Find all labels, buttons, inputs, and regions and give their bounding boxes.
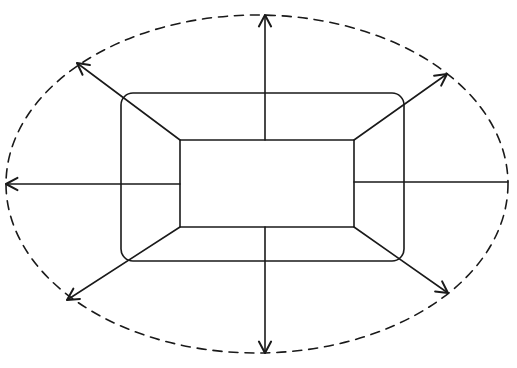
inner-rectangle [180,140,354,227]
arrow-shaft [77,63,180,140]
arrow-shaft [67,227,180,300]
arrow-shaft [354,227,448,293]
arrow-bottom-left [67,227,180,300]
arrow-top-left [77,63,180,140]
arrowhead-icon [434,74,447,86]
arrow-top-right [354,74,447,140]
arrowhead-icon [67,289,80,300]
arrow-bottom-right [354,227,448,293]
outer-rounded-rectangle [121,93,404,261]
arrowhead-icon [435,281,448,293]
expansion-diagram [0,0,517,368]
arrow-shaft [354,74,447,140]
arrow-down [259,227,271,353]
radiating-arrows [6,15,508,353]
arrow-left [6,178,180,190]
arrow-up [259,15,271,140]
diagram-canvas [0,0,517,368]
arrowhead-icon [77,63,90,75]
